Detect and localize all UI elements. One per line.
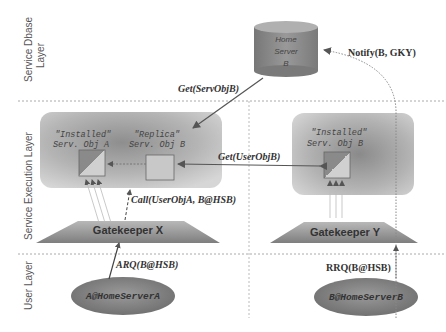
home-server-label-1: Home (275, 35, 297, 44)
service-panel-x (40, 112, 222, 188)
gatekeeper-x-label: Gatekeeper X (93, 224, 164, 236)
service-object-b (324, 152, 350, 178)
gatekeeper-y-label: Gatekeeper Y (310, 226, 381, 238)
home-server-label-2: Server (274, 47, 298, 56)
get-servobj-label: Get(ServObjB) (178, 83, 239, 95)
replica-obj-x: Serv. Obj B (129, 140, 185, 150)
rrq-label: RRQ(B@HSB) (326, 262, 391, 274)
service-object-b-replica (146, 155, 174, 180)
installed-obj-x: Serv. Obj A (53, 140, 109, 150)
home-server-label-3: B (283, 59, 289, 68)
layer-label-user: User Layer (23, 260, 34, 310)
installed-obj-y: Serv. Obj B (307, 139, 363, 149)
arq-label: ARQ(B@HSB) (115, 259, 178, 271)
layer-label-execution: Service Execution Layer (23, 131, 34, 240)
layer-label-dbase-line2: Layer (35, 42, 46, 68)
installed-label-y: "Installed" (311, 128, 367, 138)
layer-label-dbase: Service Dbase (23, 17, 34, 82)
home-server-b-database: Home Server B (254, 21, 318, 77)
call-label: Call(UserObjA, B@HSB) (131, 194, 236, 206)
get-userobj-label: Get(UserObjB) (218, 151, 280, 163)
call-arrow (125, 190, 130, 220)
installed-label-x: "Installed" (55, 130, 111, 140)
user-b-label: B@HomeServerB (329, 292, 403, 303)
notify-label: Notify(B, GKY) (348, 47, 416, 59)
gatekeeper-architecture-diagram: Service Dbase Layer Service Execution La… (0, 0, 446, 332)
service-object-a (79, 150, 105, 176)
replica-label-x: "Replica" (134, 130, 180, 140)
user-a-label: A@HomeServerA (85, 291, 160, 302)
